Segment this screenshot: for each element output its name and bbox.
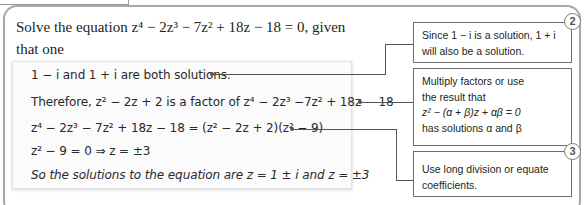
callout-1-line-2: will also be a solution.: [422, 44, 563, 60]
callout-3-line-1: Use long division or equate: [422, 162, 563, 178]
working-line-1: 1 − i and 1 + i are both solutions.: [31, 68, 231, 82]
connector-line-1b: [385, 44, 386, 74]
working-line-3: z⁴ − 2z³ − 7z² + 18z − 18 = (z² − 2z + 2…: [31, 121, 323, 135]
callout-long-division: Use long division or equate coefficients…: [413, 151, 572, 197]
working-panel: 1 − i and 1 + i are both solutions. Ther…: [12, 61, 352, 189]
callout-2-line-1: Multiply factors or use: [422, 74, 563, 90]
callout-1-line-1: Since 1 − i is a solution, 1 + i: [422, 28, 563, 44]
working-line-2: Therefore, z² − 2z + 2 is a factor of z⁴…: [31, 95, 394, 109]
connector-line-1c: [385, 44, 413, 45]
working-line-4: z² − 9 = 0 ⇒ z = ±3: [31, 144, 150, 158]
callout-2-line-4: has solutions α and β: [422, 121, 563, 137]
callout-multiply-factors: Multiply factors or use the result that …: [413, 68, 572, 146]
step-badge-3: 3: [564, 143, 581, 160]
connector-line-1a: [213, 74, 386, 75]
callout-conjugate: Since 1 − i is a solution, 1 + i will al…: [413, 22, 572, 63]
callout-2-line-2: the result that: [422, 90, 563, 106]
connector-line-3b: [396, 129, 397, 181]
working-line-5: So the solutions to the equation are z =…: [31, 168, 369, 182]
callout-2-line-3: z² − (α + β)z + αβ = 0: [422, 105, 563, 121]
callout-3-line-2: coefficients.: [422, 178, 563, 194]
connector-line-3c: [396, 180, 413, 181]
connector-line-3a: [293, 129, 397, 130]
connector-line-2: [361, 102, 413, 103]
step-badge-2: 2: [564, 13, 581, 30]
question-line-1: Solve the equation z⁴ − 2z³ − 7z² + 18z …: [16, 16, 366, 60]
